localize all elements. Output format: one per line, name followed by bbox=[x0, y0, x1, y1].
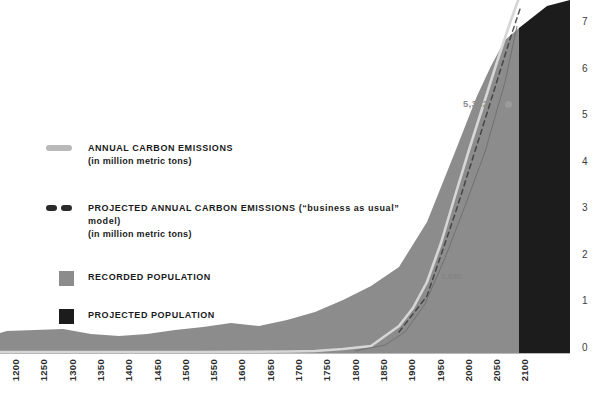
x-axis-tick-1200: 1200 bbox=[10, 359, 21, 393]
chart-screenshot: 5,332 1,630 ANNUAL CARBON EMISSIONS (in … bbox=[0, 0, 606, 395]
x-axis-tick-1350: 1350 bbox=[95, 359, 106, 393]
y-axis-tick-5: 5 bbox=[582, 110, 588, 120]
legend-label: RECORDED POPULATION bbox=[88, 271, 406, 284]
y-axis-tick-1: 1 bbox=[582, 296, 588, 306]
x-axis-tick-1600: 1600 bbox=[236, 359, 247, 393]
dashed-line-swatch-icon bbox=[46, 205, 72, 211]
legend-label: PROJECTED POPULATION bbox=[88, 309, 406, 322]
x-axis-tick-1300: 1300 bbox=[67, 359, 78, 393]
x-axis-tick-1700: 1700 bbox=[293, 359, 304, 393]
legend-spacer bbox=[46, 289, 406, 309]
x-axis-tick-1550: 1550 bbox=[208, 359, 219, 393]
x-axis-tick-1500: 1500 bbox=[180, 359, 191, 393]
x-axis: 1200125013001350140014501500155016001650… bbox=[0, 353, 606, 395]
y-axis-tick-7: 7 bbox=[582, 17, 588, 27]
y-axis-tick-2: 2 bbox=[582, 250, 588, 260]
legend-spacer bbox=[46, 168, 406, 202]
x-axis-tick-1450: 1450 bbox=[152, 359, 163, 393]
x-axis-tick-2000: 2000 bbox=[463, 359, 474, 393]
x-axis-tick-1250: 1250 bbox=[38, 359, 49, 393]
x-axis-tick-1850: 1850 bbox=[378, 359, 389, 393]
x-axis-rule bbox=[0, 353, 570, 354]
annotation-1630-label: 1,630 bbox=[441, 272, 462, 281]
legend-sublabel: (in million metric tons) bbox=[88, 228, 406, 241]
gray-square-swatch-icon bbox=[59, 271, 74, 286]
y-axis-tick-0: 0 bbox=[582, 343, 588, 353]
x-axis-tick-2100: 2100 bbox=[519, 359, 530, 393]
projected-population-area bbox=[519, 0, 570, 353]
legend-spacer bbox=[46, 241, 406, 271]
y-axis: 01234567 bbox=[570, 0, 606, 353]
line-swatch-icon bbox=[46, 145, 72, 151]
legend-item-projected-population[interactable]: PROJECTED POPULATION bbox=[46, 309, 406, 327]
annotation-5332-label: 5,332 bbox=[463, 98, 488, 109]
y-axis-tick-3: 3 bbox=[582, 203, 588, 213]
x-axis-tick-1650: 1650 bbox=[265, 359, 276, 393]
black-square-swatch-icon bbox=[59, 309, 74, 324]
x-axis-tick-2050: 2050 bbox=[491, 359, 502, 393]
legend-label: PROJECTED ANNUAL CARBON EMISSIONS (“busi… bbox=[88, 202, 406, 228]
y-axis-tick-4: 4 bbox=[582, 157, 588, 167]
legend-item-recorded-population[interactable]: RECORDED POPULATION bbox=[46, 271, 406, 289]
legend-sublabel: (in million metric tons) bbox=[88, 155, 406, 168]
x-axis-tick-1400: 1400 bbox=[123, 359, 134, 393]
annotation-5332-marker bbox=[505, 101, 512, 108]
legend-item-projected-carbon-emissions[interactable]: PROJECTED ANNUAL CARBON EMISSIONS (“busi… bbox=[46, 202, 406, 241]
x-axis-tick-1750: 1750 bbox=[321, 359, 332, 393]
legend-label: ANNUAL CARBON EMISSIONS bbox=[88, 142, 406, 155]
x-axis-tick-1800: 1800 bbox=[350, 359, 361, 393]
x-axis-tick-1900: 1900 bbox=[406, 359, 417, 393]
chart-legend: ANNUAL CARBON EMISSIONS (in million metr… bbox=[46, 142, 406, 327]
y-axis-tick-6: 6 bbox=[582, 64, 588, 74]
legend-item-annual-carbon-emissions[interactable]: ANNUAL CARBON EMISSIONS (in million metr… bbox=[46, 142, 406, 168]
x-axis-tick-1950: 1950 bbox=[435, 359, 446, 393]
